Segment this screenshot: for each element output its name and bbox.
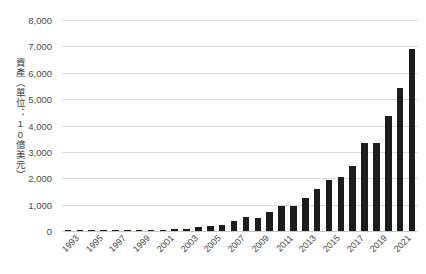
bar-slot bbox=[145, 20, 157, 231]
bar-slot bbox=[74, 20, 86, 231]
bar-slot bbox=[109, 20, 121, 231]
bar bbox=[361, 143, 368, 231]
y-axis-tick-label: 5,000 bbox=[0, 94, 52, 105]
bar-series bbox=[62, 20, 418, 231]
bar-slot bbox=[323, 20, 335, 231]
bar bbox=[100, 230, 107, 231]
bar bbox=[290, 206, 297, 231]
bar-slot bbox=[371, 20, 383, 231]
bar-slot bbox=[287, 20, 299, 231]
bar bbox=[171, 229, 178, 231]
bar bbox=[373, 143, 380, 231]
bar bbox=[278, 206, 285, 231]
bar bbox=[195, 227, 202, 231]
bar-chart: 資產（單位：10億美元） 01,0002,0003,0004,0005,0006… bbox=[0, 0, 426, 274]
y-axis-tick-label: 4,000 bbox=[0, 120, 52, 131]
bar-slot bbox=[382, 20, 394, 231]
bar-slot bbox=[252, 20, 264, 231]
bar bbox=[219, 225, 226, 231]
y-axis-tick-label: 2,000 bbox=[0, 173, 52, 184]
x-axis-tick-labels: 1993199519971999200120032005200720092011… bbox=[62, 233, 418, 273]
bar-slot bbox=[169, 20, 181, 231]
bar bbox=[207, 226, 214, 231]
y-axis-tick-label: 7,000 bbox=[0, 41, 52, 52]
bar-slot bbox=[240, 20, 252, 231]
bar-slot bbox=[406, 20, 418, 231]
bar bbox=[77, 230, 84, 231]
bar bbox=[65, 230, 72, 231]
bar bbox=[243, 217, 250, 231]
bar bbox=[136, 230, 143, 231]
bar bbox=[231, 221, 238, 231]
bar bbox=[302, 198, 309, 231]
bar-slot bbox=[193, 20, 205, 231]
bar bbox=[349, 166, 356, 231]
bar-slot bbox=[62, 20, 74, 231]
bar-slot bbox=[228, 20, 240, 231]
bar bbox=[326, 180, 333, 231]
y-axis-tick-label: 3,000 bbox=[0, 146, 52, 157]
bar-slot bbox=[394, 20, 406, 231]
bar-slot bbox=[276, 20, 288, 231]
plot-area bbox=[62, 20, 418, 231]
bar-slot bbox=[359, 20, 371, 231]
bar bbox=[338, 177, 345, 231]
bar bbox=[88, 230, 95, 231]
bar-slot bbox=[299, 20, 311, 231]
bar bbox=[266, 212, 273, 231]
bar bbox=[148, 230, 155, 231]
y-axis-tick-label: 1,000 bbox=[0, 199, 52, 210]
bar bbox=[409, 49, 416, 231]
gridline bbox=[62, 231, 418, 232]
bar-slot bbox=[181, 20, 193, 231]
bar bbox=[183, 229, 190, 232]
y-axis-tick-label: 8,000 bbox=[0, 15, 52, 26]
y-axis-tick-label: 0 bbox=[0, 226, 52, 237]
bar-slot bbox=[121, 20, 133, 231]
bar bbox=[160, 230, 167, 231]
bar bbox=[314, 189, 321, 231]
y-axis-tick-label: 6,000 bbox=[0, 67, 52, 78]
bar-slot bbox=[216, 20, 228, 231]
bar bbox=[112, 230, 119, 231]
bar-slot bbox=[157, 20, 169, 231]
bar bbox=[397, 88, 404, 231]
bar bbox=[255, 218, 262, 231]
bar bbox=[385, 116, 392, 231]
bar-slot bbox=[204, 20, 216, 231]
bar-slot bbox=[86, 20, 98, 231]
bar-slot bbox=[335, 20, 347, 231]
bar-slot bbox=[98, 20, 110, 231]
bar bbox=[124, 230, 131, 231]
bar-slot bbox=[347, 20, 359, 231]
bar-slot bbox=[133, 20, 145, 231]
bar-slot bbox=[264, 20, 276, 231]
bar-slot bbox=[311, 20, 323, 231]
